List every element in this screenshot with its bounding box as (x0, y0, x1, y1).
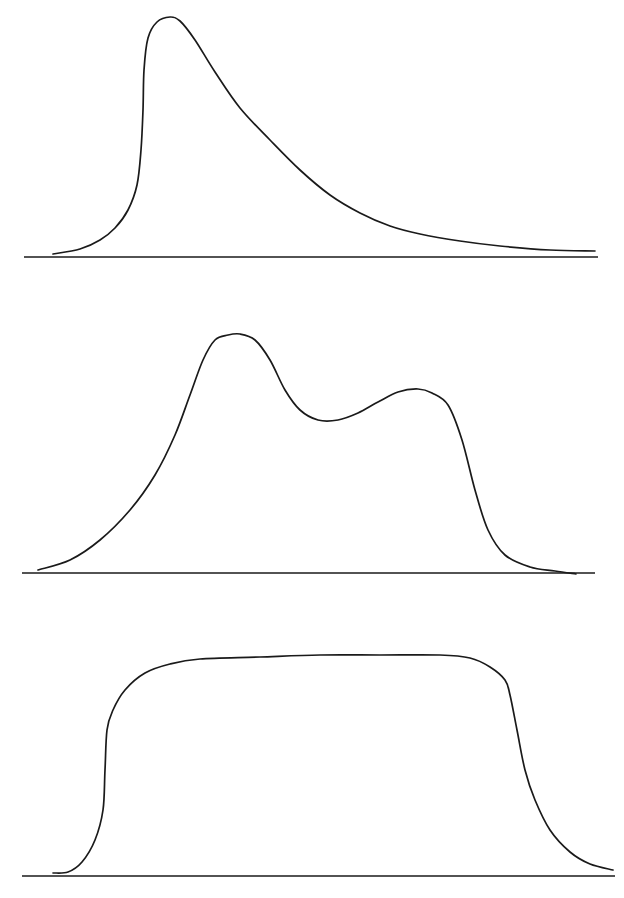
curve-panel-right-skewed (24, 17, 598, 257)
distribution-curve-bimodal (38, 334, 576, 574)
distribution-curve-plateau (53, 655, 613, 873)
curve-panel-bimodal (22, 334, 595, 574)
figure-canvas (0, 0, 624, 898)
distribution-curves-figure (0, 0, 624, 898)
distribution-curve-right-skewed (53, 17, 595, 254)
curve-panel-plateau (22, 655, 615, 876)
